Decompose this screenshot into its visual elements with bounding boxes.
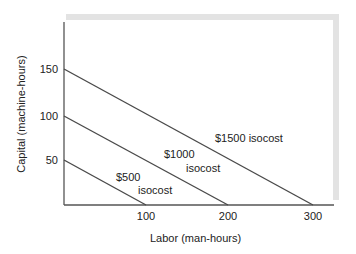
isocost-1000-label-text: isocost — [186, 163, 220, 174]
x-axis-label: Labor (man-hours) — [150, 233, 241, 244]
isocost-1500-label: $1500 isocost — [215, 133, 283, 144]
x-tick-200: 200 — [213, 211, 243, 222]
y-tick-150: 150 — [28, 64, 58, 75]
y-tick-100: 100 — [28, 111, 58, 122]
isocost-500-label-text: isocost — [138, 185, 172, 196]
x-tick-100: 100 — [131, 211, 161, 222]
frame-right — [333, 14, 339, 200]
isocost-1000-label-amount: $1000 — [164, 149, 195, 160]
isocost-500-label-amount: $500 — [116, 172, 140, 183]
y-tick-50: 50 — [28, 155, 58, 166]
x-tick-300: 300 — [298, 211, 328, 222]
y-axis-label: Capital (machine-hours) — [15, 49, 27, 179]
frame-top — [66, 14, 338, 20]
